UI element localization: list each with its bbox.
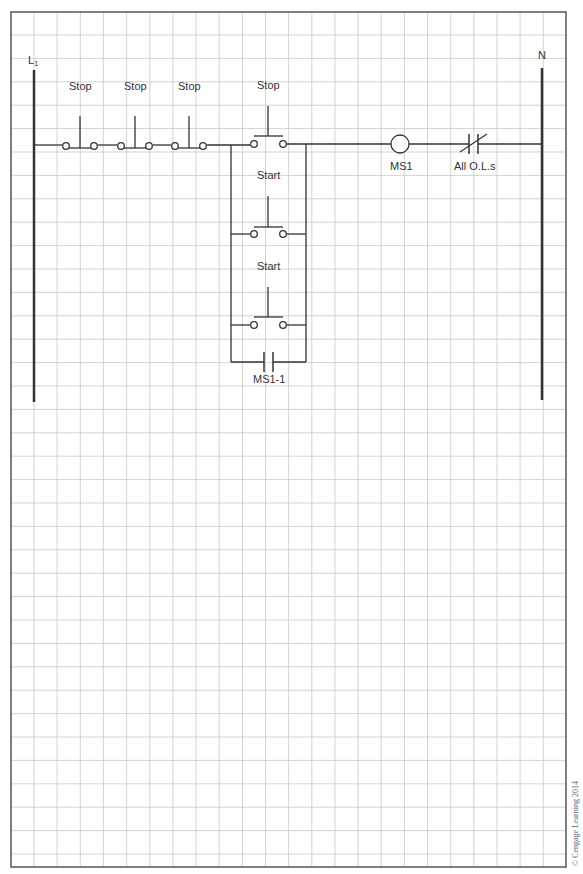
grid-lines	[11, 12, 566, 867]
stop-label-no: Stop	[257, 80, 280, 91]
copyright-credit: © Cengage Learning 2014	[571, 781, 580, 866]
start-pushbutton-1	[251, 196, 287, 237]
left-rail-label-subscript: 1	[34, 60, 38, 67]
right-rail-label: N	[538, 50, 546, 61]
overload-label: All O.L.s	[454, 161, 496, 172]
left-rail-label: L1	[28, 55, 38, 67]
ms1-1-label: MS1-1	[253, 374, 285, 385]
start-label-1: Start	[257, 170, 280, 181]
stop-pushbutton-nc-3	[172, 116, 207, 149]
stop-pushbutton-nc-2	[118, 116, 153, 149]
ladder-diagram-sheet	[0, 0, 583, 874]
stop-label-3: Stop	[178, 81, 201, 92]
start-label-2: Start	[257, 261, 280, 272]
stop-pushbutton-no	[251, 106, 287, 147]
stop-label-2: Stop	[124, 81, 147, 92]
start-pushbutton-2	[251, 287, 287, 328]
stop-label-1: Stop	[69, 81, 92, 92]
main-rung	[34, 144, 542, 145]
stop-pushbutton-nc-1	[63, 116, 98, 149]
ms1-coil	[391, 135, 409, 153]
coil-label: MS1	[390, 161, 413, 172]
